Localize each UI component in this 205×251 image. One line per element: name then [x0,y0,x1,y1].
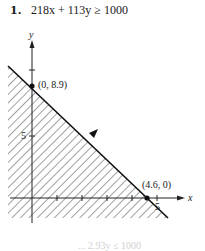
y-axis-arrow-icon [30,40,35,48]
arrow-up-right-icon [89,129,98,138]
y-axis-label: y [28,29,34,40]
x-tick-label: 5 [155,201,160,212]
y-tick-label: 5 [21,130,26,141]
y-intercept-label: (0, 8.9) [38,79,67,91]
x-intercept-label: (4.6, 0) [142,179,171,191]
y-intercept-point [29,83,34,88]
x-axis-arrow-icon [177,196,185,201]
next-problem-cutoff: ... 2.93y ≤ 1000 [78,240,141,251]
x-axis-label: x [187,192,193,203]
x-intercept-point [144,195,149,200]
